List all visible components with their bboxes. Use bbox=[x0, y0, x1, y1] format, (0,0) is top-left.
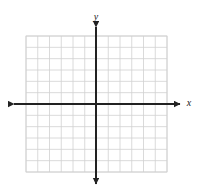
coordinate-plane-svg: x y bbox=[0, 0, 200, 191]
coordinate-plane-figure: x y bbox=[0, 0, 200, 191]
y-axis-label: y bbox=[93, 11, 99, 22]
x-axis-label: x bbox=[186, 97, 192, 108]
figure-background bbox=[0, 0, 200, 191]
